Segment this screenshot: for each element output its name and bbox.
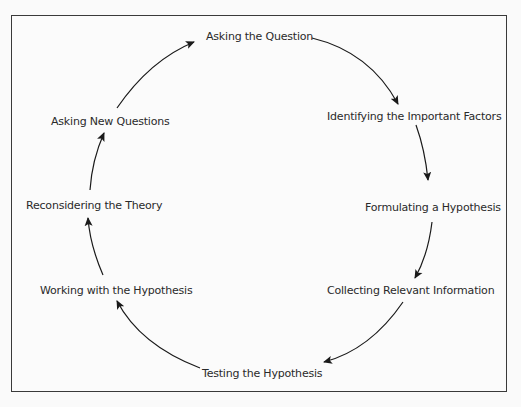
step-asking-new-questions: Asking New Questions: [51, 115, 170, 128]
arrow-asknew-to-ask: [117, 42, 194, 108]
arrow-collect-to-testing: [324, 302, 403, 362]
arrow-formulate-to-collect: [415, 222, 432, 278]
arrow-identify-to-formulate: [416, 125, 428, 180]
step-collecting-relevant-information: Collecting Relevant Information: [327, 284, 494, 297]
step-asking-the-question: Asking the Question: [206, 30, 313, 43]
step-formulating-hypothesis: Formulating a Hypothesis: [365, 201, 501, 214]
step-identifying-important-factors: Identifying the Important Factors: [327, 110, 501, 123]
step-working-with-hypothesis: Working with the Hypothesis: [40, 284, 192, 297]
step-reconsidering-theory: Reconsidering the Theory: [26, 199, 162, 212]
arrow-reconsider-to-asknew: [90, 133, 104, 190]
arrow-working-to-reconsider: [88, 218, 103, 275]
arrow-ask-to-identify: [312, 38, 398, 104]
arrow-testing-to-working: [117, 301, 200, 368]
step-testing-hypothesis: Testing the Hypothesis: [202, 367, 322, 380]
